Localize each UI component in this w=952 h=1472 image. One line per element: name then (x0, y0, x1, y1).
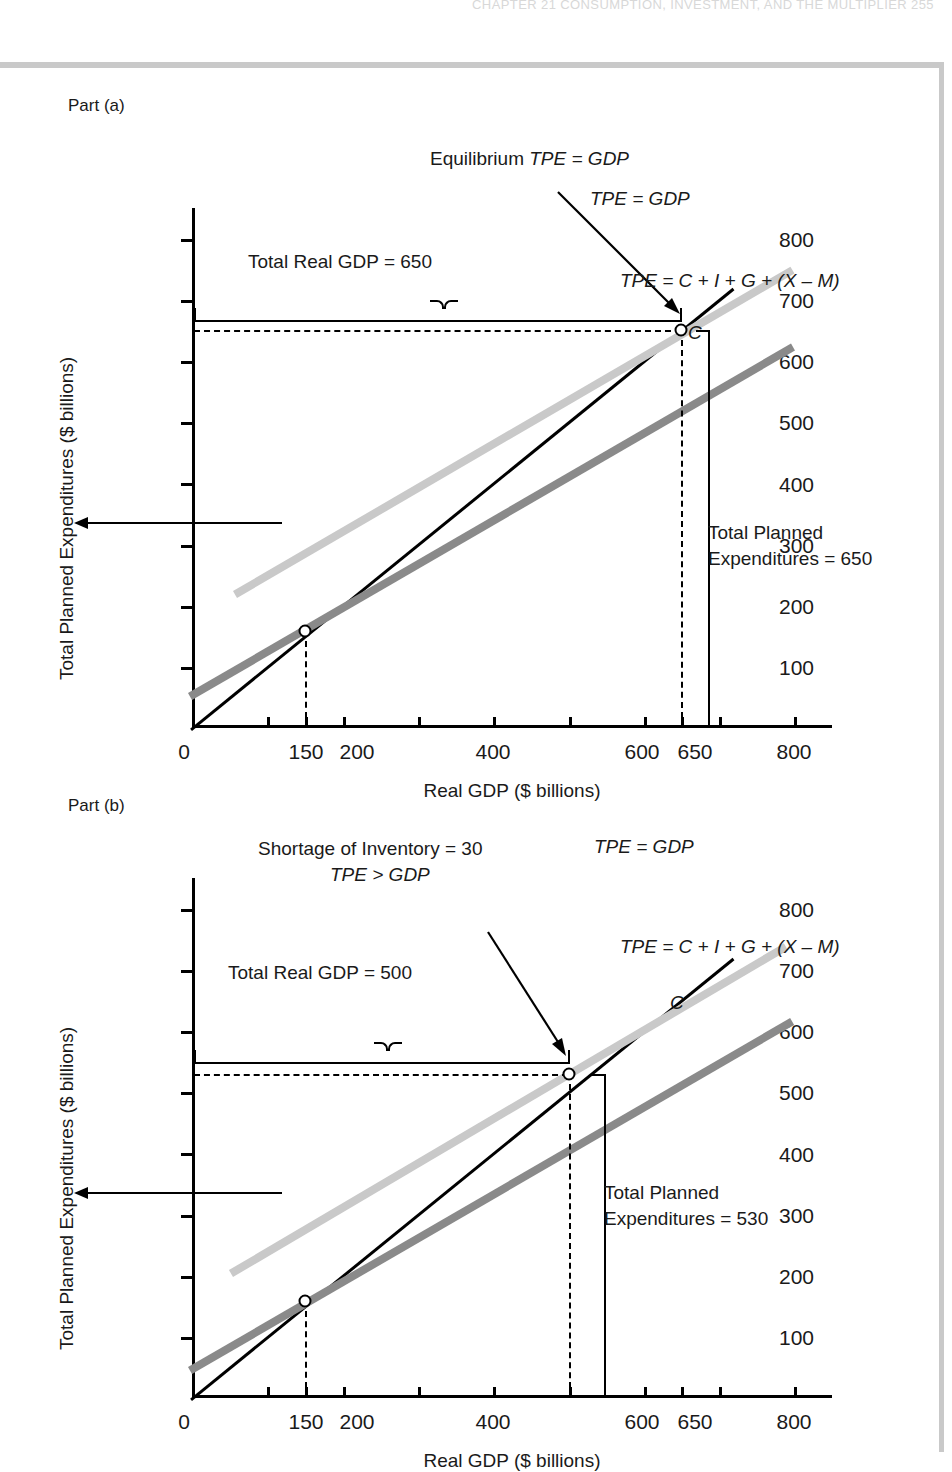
y-tick-200-b (181, 1276, 192, 1279)
y-axis-pointer-arrow-b (72, 1178, 292, 1208)
y-tick-label-800: 800 (779, 228, 814, 252)
total-planned-expenditures-line2-a: Expenditures = 650 (708, 546, 872, 571)
x-tick-500 (569, 717, 572, 728)
y-tick-700-b (181, 970, 192, 973)
x-tick-300-b (418, 1387, 421, 1398)
y-tick-600 (181, 361, 192, 364)
y-axis-a (192, 208, 195, 728)
x-tick-800-b (794, 1387, 797, 1398)
x-tick-label-400: 400 (475, 740, 510, 764)
y-tick-400-b (181, 1153, 192, 1156)
origin-label-a: 0 (178, 740, 190, 764)
x-tick-400 (493, 717, 496, 728)
marker-tpe-b (562, 1067, 575, 1080)
curve-label-45-b: TPE = GDP (594, 836, 694, 858)
total-planned-expenditures-line1-a: Total Planned (708, 520, 823, 545)
tpe-greater-gdp-label-b: TPE > GDP (330, 862, 430, 887)
part-a-label: Part (a) (68, 96, 125, 116)
equilibrium-annotation-text-a: Equilibrium (430, 148, 529, 169)
y-axis-pointer-arrow-a (72, 508, 292, 538)
y-tick-label-800-b: 800 (779, 898, 814, 922)
x-tick-300 (418, 717, 421, 728)
total-real-gdp-brace-b (194, 1050, 570, 1064)
y-tick-label-300-b: 300 (779, 1204, 814, 1228)
x-tick-label-650: 650 (677, 740, 712, 764)
x-tick-label-200-b: 200 (339, 1410, 374, 1434)
y-tick-label-100-b: 100 (779, 1326, 814, 1350)
y-tick-label-100: 100 (779, 656, 814, 680)
total-planned-expenditures-line1-b: Total Planned (604, 1180, 719, 1205)
x-tick-label-400-b: 400 (475, 1410, 510, 1434)
y-tick-label-700: 700 (779, 289, 814, 313)
running-head: CHAPTER 21 CONSUMPTION, INVESTMENT, AND … (0, 0, 952, 15)
part-b-label: Part (b) (68, 796, 125, 816)
total-real-gdp-label-b: Total Real GDP = 500 (228, 960, 412, 985)
x-tick-label-200: 200 (339, 740, 374, 764)
x-tick-600 (644, 717, 647, 728)
tpe-dropline-b (569, 1074, 571, 1398)
equilibrium-dropline-a (681, 330, 683, 728)
curve-label-c-b: C (670, 992, 684, 1014)
c-crossing-dropline-a (305, 631, 307, 728)
y-axis-title-a: Total Planned Expenditures ($ billions) (56, 357, 78, 680)
x-tick-label-150: 150 (288, 740, 323, 764)
x-tick-700-b (719, 1387, 722, 1398)
total-planned-expenditures-bracket-b (592, 1074, 606, 1398)
y-axis-title-b: Total Planned Expenditures ($ billions) (56, 1027, 78, 1350)
x-axis-b (192, 1395, 832, 1398)
y-tick-600-b (181, 1031, 192, 1034)
marker-equilibrium-a (675, 324, 688, 337)
x-tick-label-600: 600 (624, 740, 659, 764)
shortage-of-inventory-label-b: Shortage of Inventory = 30 (258, 836, 482, 861)
curve-label-45-a: TPE = GDP (590, 188, 690, 210)
x-tick-400-b (493, 1387, 496, 1398)
curve-label-c-a: C (688, 322, 702, 344)
y-tick-label-700-b: 700 (779, 959, 814, 983)
brace-notch-right-b (388, 1042, 402, 1051)
x-tick-200-b (343, 1387, 346, 1398)
y-tick-100-b (181, 1337, 192, 1340)
y-tick-200 (181, 606, 192, 609)
y-tick-label-400-b: 400 (779, 1143, 814, 1167)
y-tick-label-500-b: 500 (779, 1081, 814, 1105)
equilibrium-annotation-a: Equilibrium TPE = GDP (430, 146, 629, 171)
x-axis-title-a: Real GDP ($ billions) (423, 780, 600, 802)
x-tick-label-800-b: 800 (776, 1410, 811, 1434)
x-axis-title-b: Real GDP ($ billions) (423, 1450, 600, 1472)
total-real-gdp-brace-a (194, 308, 682, 322)
x-tick-200 (343, 717, 346, 728)
curve-label-tpe-b: TPE = C + I + G + (X – M) (620, 936, 840, 958)
y-tick-label-200-b: 200 (779, 1265, 814, 1289)
y-tick-label-400: 400 (779, 473, 814, 497)
y-tick-300-b (181, 1215, 192, 1218)
brace-notch-left-b (374, 1042, 388, 1051)
y-tick-label-500: 500 (779, 411, 814, 435)
marker-c-crossing-b (298, 1295, 311, 1308)
y-tick-800-b (181, 909, 192, 912)
x-tick-label-800: 800 (776, 740, 811, 764)
y-tick-300 (181, 545, 192, 548)
x-tick-800 (794, 717, 797, 728)
y-tick-100 (181, 667, 192, 670)
x-tick-600-b (644, 1387, 647, 1398)
curve-label-tpe-a: TPE = C + I + G + (X – M) (620, 270, 840, 292)
y-tick-800 (181, 239, 192, 242)
y-tick-700 (181, 300, 192, 303)
y-tick-400 (181, 483, 192, 486)
origin-label-b: 0 (178, 1410, 190, 1434)
equilibrium-level-line-a (194, 330, 681, 332)
c-crossing-dropline-b (305, 1301, 307, 1398)
x-tick-label-150-b: 150 (288, 1410, 323, 1434)
equilibrium-annotation-italic-a: TPE = GDP (529, 148, 629, 169)
figure-frame: Part (a) 100 200 300 400 500 600 700 800 (0, 62, 944, 1452)
x-tick-700 (719, 717, 722, 728)
marker-c-crossing-a (298, 625, 311, 638)
x-tick-650-b (681, 1387, 684, 1398)
total-real-gdp-label-a: Total Real GDP = 650 (248, 249, 432, 274)
y-tick-500 (181, 422, 192, 425)
brace-notch-right-a (444, 300, 458, 309)
tpe-level-line-b (194, 1074, 568, 1076)
x-tick-100 (267, 717, 270, 728)
y-tick-label-200: 200 (779, 595, 814, 619)
y-axis-b (192, 878, 195, 1398)
